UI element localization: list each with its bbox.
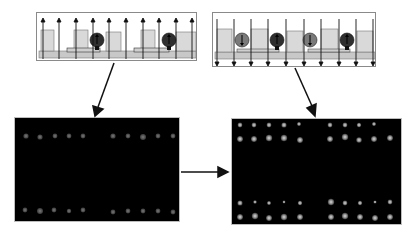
spot-array-before [15, 118, 181, 223]
arrow-top-right-to-bottom-right [295, 68, 316, 116]
fluorescence-image-after [231, 118, 402, 225]
schematic-panel-upward [36, 12, 197, 61]
schematic-panel-downward [212, 12, 376, 67]
fluorescence-image-before [14, 117, 180, 222]
spot-array-after [232, 119, 403, 226]
arrow-before-to-after [181, 167, 228, 177]
device-cross-section-upward [37, 13, 198, 62]
arrow-top-left-to-bottom-left [93, 63, 114, 116]
device-cross-section-downward [213, 13, 377, 68]
